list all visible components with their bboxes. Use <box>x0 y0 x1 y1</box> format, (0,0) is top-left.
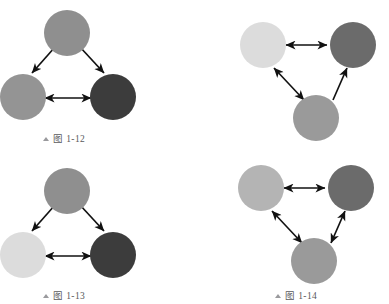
caption-text: 图 1-13 <box>53 292 85 302</box>
diagram-canvas <box>0 0 160 130</box>
node-left <box>0 74 46 120</box>
diagram-canvas <box>196 155 376 285</box>
diagram-canvas <box>0 155 160 285</box>
node-right <box>330 22 376 68</box>
edge-top-left <box>32 205 55 231</box>
edge-top-right <box>80 205 104 231</box>
edge-bottom-right <box>333 68 347 100</box>
figure-1-13: 图 1-13 <box>0 155 195 304</box>
triangle-up-icon <box>43 137 49 141</box>
triangle-diagram-1-12 <box>0 0 160 130</box>
node-left <box>240 22 286 68</box>
edge-left-bottom <box>274 68 304 100</box>
caption-text: 图 1-12 <box>53 135 85 145</box>
edge-left-bottom <box>272 211 302 243</box>
node-right <box>90 232 136 278</box>
figure-1-12: 图 1-12 <box>0 0 195 152</box>
triangle-up-icon <box>43 294 49 298</box>
node-bottom <box>291 238 337 284</box>
figure-sheet: 图 1-12 <box>0 0 389 304</box>
node-left <box>0 232 46 278</box>
triangle-diagram-top-right <box>196 0 376 150</box>
edge-top-right <box>80 47 104 73</box>
figure-caption-1-12: 图 1-12 <box>43 135 85 145</box>
diagram-canvas <box>196 0 376 150</box>
figure-1-14: 图 1-14 <box>196 155 389 304</box>
caption-text: 图 1-14 <box>285 292 317 302</box>
node-right <box>90 74 136 120</box>
node-top <box>44 168 90 214</box>
node-bottom <box>293 95 339 141</box>
triangle-up-icon <box>275 294 281 298</box>
figure-caption-1-14: 图 1-14 <box>275 292 317 302</box>
node-right <box>328 165 374 211</box>
edge-bottom-right <box>331 211 345 243</box>
figure-caption-1-13: 图 1-13 <box>43 292 85 302</box>
triangle-diagram-1-13 <box>0 155 160 285</box>
node-top <box>44 10 90 56</box>
node-left <box>238 165 284 211</box>
figure-top-right <box>196 0 389 152</box>
triangle-diagram-1-14 <box>196 155 376 285</box>
edge-top-left <box>32 47 55 73</box>
